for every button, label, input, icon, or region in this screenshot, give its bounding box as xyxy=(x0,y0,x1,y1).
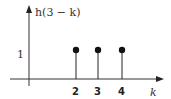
stem-plot: h(3 − k) 1 2 3 4 k xyxy=(0,0,171,99)
stem-k4 xyxy=(119,47,125,79)
x-axis-arrow-icon xyxy=(156,76,164,82)
stem-k3 xyxy=(95,47,101,79)
x-tick-4: 4 xyxy=(118,86,125,97)
y-axis-label: h(3 − k) xyxy=(35,6,81,19)
x-tick-3: 3 xyxy=(94,86,101,97)
x-axis-label: k xyxy=(150,86,157,99)
stem-k2 xyxy=(73,47,79,79)
y-tick-1: 1 xyxy=(17,48,24,61)
y-axis-arrow-icon xyxy=(26,5,32,13)
x-tick-2: 2 xyxy=(72,86,79,97)
